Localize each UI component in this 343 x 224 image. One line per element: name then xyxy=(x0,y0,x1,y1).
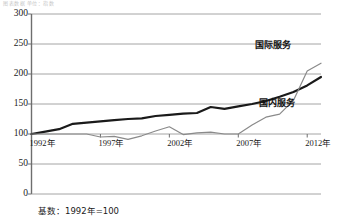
y-axis-tick-label: 300 xyxy=(2,9,28,19)
chart-footnote: 基数：1992年=100 xyxy=(38,207,119,216)
x-axis-tick-label: 1992年 xyxy=(30,139,56,148)
y-axis-tick-label: 100 xyxy=(2,129,28,139)
x-axis-tick-label: 1997年 xyxy=(98,139,124,148)
x-axis-tick-label: 2002年 xyxy=(167,139,193,148)
y-axis-tick-label: 150 xyxy=(2,99,28,109)
y-axis-tick-label: 0 xyxy=(2,189,28,199)
y-axis-tick-label: 50 xyxy=(2,159,28,169)
cut-off-header-text: 图表数据 单位：指数 xyxy=(3,0,54,6)
line-chart-plot-area xyxy=(0,0,343,224)
chart-figure: 图表数据 单位：指数 050100150200250300 1992年1997年… xyxy=(0,0,343,224)
series-label-international: 国际服务 xyxy=(255,41,291,50)
series-label-domestic: 国内服务 xyxy=(259,99,295,108)
y-axis-tick-label: 200 xyxy=(2,69,28,79)
x-axis-tick-label: 2012年 xyxy=(305,139,331,148)
x-axis-tick-label: 2007年 xyxy=(236,139,262,148)
y-axis-tick-label: 250 xyxy=(2,39,28,49)
